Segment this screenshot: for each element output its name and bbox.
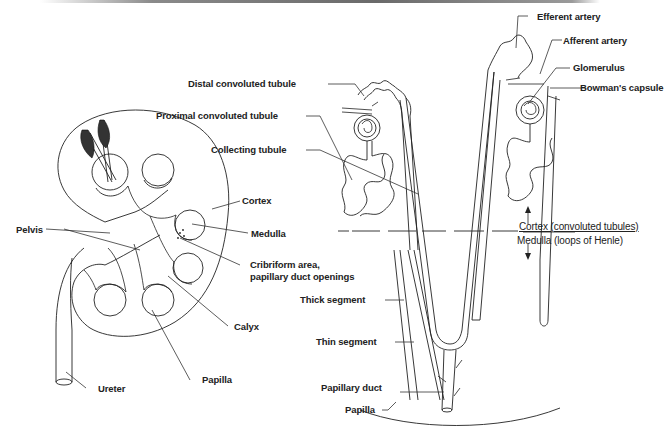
- label-afferent-artery: Afferent artery: [563, 35, 627, 46]
- diagram-artwork: [0, 0, 669, 431]
- label-calyx: Calyx: [234, 321, 259, 332]
- label-pelvis: Pelvis: [16, 224, 43, 235]
- label-medulla-region: Medulla (loops of Henle): [517, 235, 623, 246]
- label-ureter: Ureter: [98, 383, 125, 394]
- label-medulla: Medulla: [251, 228, 286, 239]
- label-efferent-artery: Efferent artery: [537, 11, 600, 22]
- label-thick-segment: Thick segment: [300, 294, 365, 305]
- kidney-illustration: [56, 110, 229, 385]
- kidney-nephron-diagram: Pelvis Cortex Medulla Cribriform area, p…: [0, 0, 669, 431]
- nephron-leader-lines: [306, 16, 586, 410]
- label-cribriform-area: Cribriform area,: [250, 259, 320, 270]
- label-papilla-nephron: Papilla: [345, 404, 375, 415]
- label-bowmans-capsule: Bowman's capsule: [580, 82, 664, 93]
- label-collecting-tubule: Collecting tubule: [211, 144, 286, 155]
- label-distal-convoluted-tubule: Distal convoluted tubule: [188, 78, 296, 89]
- label-glomerulus: Glomerulus: [573, 62, 625, 73]
- label-papilla-kidney: Papilla: [202, 374, 232, 385]
- label-cortex: Cortex: [242, 195, 272, 206]
- label-papillary-duct: Papillary duct: [321, 382, 382, 393]
- label-cortex-region: Cortex (convoluted tubules): [519, 221, 639, 232]
- label-proximal-convoluted-tubule: Proximal convoluted tubule: [156, 110, 278, 121]
- label-thin-segment: Thin segment: [316, 336, 377, 347]
- label-papillary-duct-openings: papillary duct openings: [250, 271, 354, 282]
- kidney-leader-lines: [46, 201, 248, 388]
